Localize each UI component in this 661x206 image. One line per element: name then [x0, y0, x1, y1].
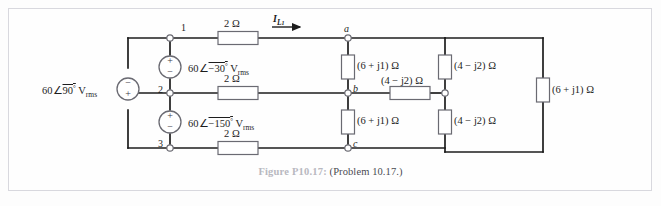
source-lower-middle-unit: V [235, 118, 243, 129]
line-resistor-bottom-symbol [218, 142, 258, 155]
line-resistor-middle-symbol [218, 87, 258, 100]
node-a-label: a [344, 24, 349, 34]
source-upper-middle-label: 60∠−30° Vrms [188, 62, 249, 76]
line-resistor-top-label: 2 Ω [224, 19, 240, 30]
node-a-dot [345, 35, 351, 41]
impedance-right-symbol [537, 78, 550, 102]
impedance-a-b-symbol [342, 55, 355, 79]
impedance-b-c-label: (6 + j1) Ω [357, 116, 399, 127]
figure-caption: Figure P10.17: (Problem 10.17.) [0, 166, 661, 177]
node-b-dot [345, 90, 351, 96]
source-upper-middle-magnitude: 60 [188, 63, 199, 74]
figure-page: − + + − + − 1 2 3 a b c 2 Ω 2 Ω 2 Ω (6 +… [0, 0, 661, 206]
source-lower-middle-unit-sub: rms [243, 123, 254, 132]
impedance-b-series-label: (4 − j2) Ω [381, 76, 423, 87]
source-lower-middle-magnitude: 60 [188, 118, 199, 129]
line-resistor-top-symbol [218, 32, 258, 45]
node-2-label: 2 [158, 85, 163, 95]
source-lower-middle-angle: −150° [209, 118, 233, 129]
impedance-mid-upper-symbol [439, 55, 452, 79]
source-left-angle: 90° [63, 85, 76, 96]
node-mid-dot [442, 90, 448, 96]
source-left-polarity-top: − [125, 77, 131, 88]
node-3-dot [167, 145, 173, 151]
source-left-unit-sub: rms [86, 90, 97, 99]
node-c-dot [345, 145, 351, 151]
node-2-dot [167, 90, 173, 96]
source-left-unit: V [78, 85, 86, 96]
current-subscript-2: 1 [282, 20, 285, 26]
source-left-polarity-bottom: + [125, 88, 131, 99]
node-3-label: 3 [158, 139, 163, 149]
source-upper-middle-unit: V [230, 63, 238, 74]
angle-icon: ∠ [53, 86, 63, 97]
impedance-mid-lower-symbol [439, 110, 452, 134]
node-1-dot [167, 35, 173, 41]
impedance-a-b-label: (6 + j1) Ω [357, 61, 399, 72]
impedance-mid-upper-label: (4 − j2) Ω [454, 61, 496, 72]
source-lower-middle-polarity-top: + [167, 110, 173, 121]
source-lower-middle-label: 60∠−150° Vrms [188, 117, 254, 131]
current-IL1-label: IL1 [273, 14, 285, 27]
caption-label: Figure P10.17: [258, 166, 327, 177]
angle-icon: ∠ [199, 119, 209, 130]
impedance-b-c-symbol [342, 110, 355, 134]
caption-text: (Problem 10.17.) [330, 166, 403, 177]
source-left-label: 60∠90° Vrms [42, 84, 97, 98]
source-lower-middle-polarity-bottom: − [167, 121, 173, 132]
source-left-magnitude: 60 [42, 85, 53, 96]
node-c-label: c [353, 139, 357, 149]
node-b-label: b [353, 84, 358, 94]
impedance-b-series-symbol [390, 87, 430, 100]
source-upper-middle-unit-sub: rms [238, 68, 249, 77]
source-upper-middle-angle: −30° [209, 63, 228, 74]
source-upper-middle-polarity-bottom: − [167, 66, 173, 77]
source-upper-middle-polarity-top: + [167, 55, 173, 66]
node-1-label: 1 [181, 23, 186, 33]
angle-icon: ∠ [199, 64, 209, 75]
impedance-right-label: (6 + j1) Ω [552, 85, 594, 96]
impedance-mid-lower-label: (4 − j2) Ω [454, 116, 496, 127]
